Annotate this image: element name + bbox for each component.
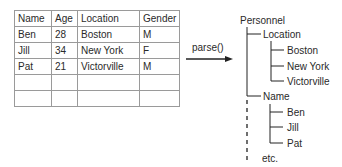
tree-node-name: Name — [263, 91, 290, 102]
tree-root: Personnel — [240, 15, 285, 26]
tree-leaf: Boston — [287, 45, 318, 56]
tree-leaf: Pat — [287, 138, 302, 149]
arrow-label: parse() — [192, 42, 224, 53]
tree-node-location: Location — [263, 29, 301, 40]
tree-leaf: New York — [287, 61, 329, 72]
tree-leaf: Victorville — [287, 76, 330, 87]
tree-more: etc. — [262, 153, 278, 164]
tree-leaf: Ben — [287, 107, 305, 118]
tree-leaf: Jill — [287, 122, 299, 133]
arrow-icon — [186, 56, 233, 62]
